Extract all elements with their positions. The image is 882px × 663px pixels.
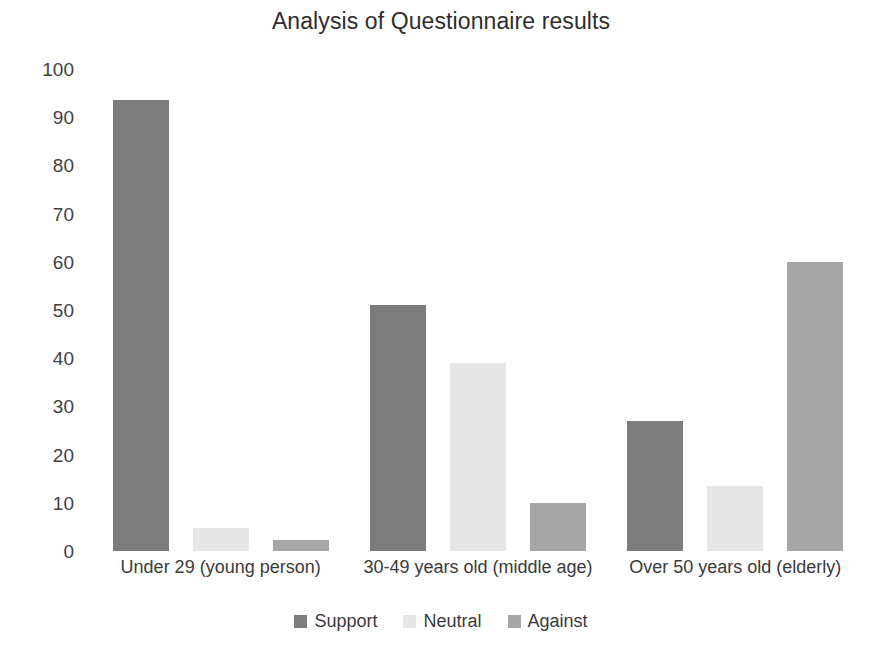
bar-against[interactable] [530, 503, 586, 551]
y-axis-tick-label: 20 [22, 445, 74, 464]
y-axis-tick-label: 50 [22, 301, 74, 320]
bar-group [607, 69, 864, 551]
legend-item-against[interactable]: Against [508, 611, 588, 632]
bar-group [92, 69, 349, 551]
y-axis-tick-label: 40 [22, 349, 74, 368]
y-axis-tick-label: 70 [22, 204, 74, 223]
y-axis-tick-label: 60 [22, 252, 74, 271]
bar-support[interactable] [627, 421, 683, 551]
bar-group [349, 69, 606, 551]
legend-label: Neutral [423, 611, 481, 632]
legend-swatch-icon [403, 615, 416, 628]
chart-title: Analysis of Questionnaire results [0, 8, 882, 35]
bar-neutral[interactable] [707, 486, 763, 551]
legend-label: Support [314, 611, 377, 632]
chart-legend: SupportNeutralAgainst [0, 611, 882, 632]
y-axis-tick-label: 90 [22, 108, 74, 127]
plot-area [92, 69, 864, 551]
legend-item-support[interactable]: Support [294, 611, 377, 632]
x-axis-category-label: Under 29 (young person) [92, 557, 349, 578]
bar-support[interactable] [113, 100, 169, 551]
bar-neutral[interactable] [450, 363, 506, 551]
x-axis-category-label: Over 50 years old (elderly) [607, 557, 864, 578]
x-axis: Under 29 (young person)30-49 years old (… [92, 557, 864, 578]
legend-item-neutral[interactable]: Neutral [403, 611, 481, 632]
y-axis: 1009080706050403020100 [22, 69, 74, 551]
y-axis-tick-label: 80 [22, 156, 74, 175]
x-axis-category-label: 30-49 years old (middle age) [349, 557, 606, 578]
y-axis-tick-label: 10 [22, 493, 74, 512]
bar-against[interactable] [273, 540, 329, 551]
y-axis-tick-label: 100 [22, 60, 74, 79]
bar-groups [92, 69, 864, 551]
y-axis-tick-label: 0 [22, 542, 74, 561]
bar-support[interactable] [370, 305, 426, 551]
bar-against[interactable] [787, 262, 843, 551]
bar-neutral[interactable] [193, 528, 249, 551]
chart-container: Analysis of Questionnaire results 100908… [0, 0, 882, 663]
y-axis-tick-label: 30 [22, 397, 74, 416]
legend-label: Against [528, 611, 588, 632]
legend-swatch-icon [294, 615, 307, 628]
legend-swatch-icon [508, 615, 521, 628]
